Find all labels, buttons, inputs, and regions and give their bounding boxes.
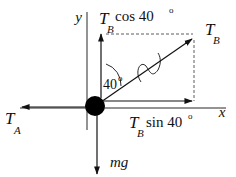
- tb-cos-label-deg: o: [169, 5, 174, 15]
- mg-label: mg: [110, 154, 129, 170]
- replaced-vector-squiggle-icon: [138, 53, 160, 82]
- ta-label-sub: A: [13, 124, 21, 136]
- angle-label: 40: [103, 77, 117, 92]
- tb-cos-label-sub: B: [107, 23, 114, 35]
- tb-sin-label-deg: o: [188, 111, 193, 121]
- tb-cos-label-rest: cos 40: [115, 8, 154, 24]
- tb-sin-label-sub: B: [137, 127, 144, 139]
- y-axis-label: y: [73, 9, 82, 25]
- tb-label-sub: B: [213, 34, 220, 46]
- angle-label-deg: o: [118, 73, 123, 83]
- free-body-diagram: y x T B cos 40 o T B 40 o T B sin 40 o T…: [0, 0, 236, 177]
- tb-arrow: [101, 39, 192, 102]
- x-axis-label: x: [218, 104, 226, 120]
- tb-sin-label-rest: sin 40: [146, 114, 182, 130]
- mass-point: [85, 96, 105, 116]
